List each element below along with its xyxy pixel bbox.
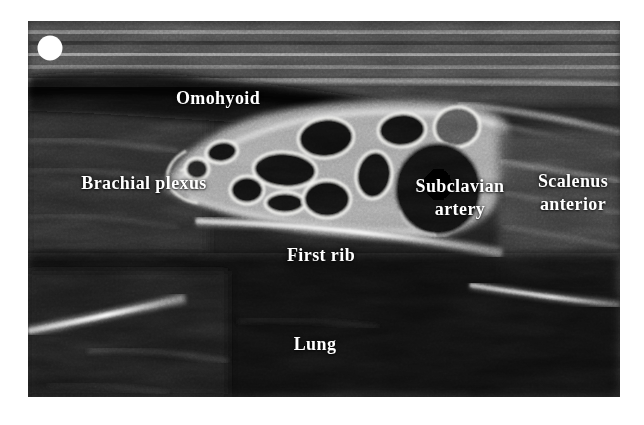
orientation-marker-dot [38, 36, 63, 61]
label-first-rib: First rib [287, 244, 355, 267]
label-lung: Lung [294, 333, 337, 356]
label-scalenus-line2: anterior [538, 193, 608, 216]
page-root: { "figure": { "kind": "annotated-ultraso… [0, 0, 644, 425]
label-subclavian-artery: Subclavian artery [415, 175, 504, 221]
label-scalenus-line1: Scalenus [538, 170, 608, 193]
label-subclavian-line1: Subclavian [415, 175, 504, 198]
label-omohyoid: Omohyoid [176, 87, 260, 110]
ultrasound-figure: Omohyoid Brachial plexus Subclavian arte… [28, 21, 620, 397]
label-scalenus-anterior: Scalenus anterior [538, 170, 608, 216]
label-brachial-plexus: Brachial plexus [81, 172, 207, 195]
label-subclavian-line2: artery [415, 198, 504, 221]
